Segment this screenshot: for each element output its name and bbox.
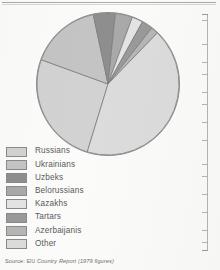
legend-label: Ukrainians — [35, 161, 75, 169]
axis-line — [207, 14, 208, 250]
adjacent-chart-axis — [200, 14, 214, 250]
axis-tick — [202, 194, 208, 195]
page-top-rule-shadow — [2, 4, 216, 5]
axis-tick — [202, 140, 208, 141]
axis-tick — [202, 62, 208, 63]
source-note: (1979 figures) — [78, 258, 114, 264]
source-publisher: EIU — [27, 258, 36, 264]
legend-item: Russians — [6, 145, 136, 158]
legend-swatch — [6, 173, 27, 183]
legend-swatch — [6, 199, 27, 209]
legend-swatch — [6, 186, 27, 196]
legend-item: Kazakhs — [6, 198, 136, 211]
legend-item: Azerbaijanis — [6, 224, 136, 237]
legend-label: Other — [35, 240, 56, 248]
legend-label: Russians — [35, 147, 70, 155]
axis-tick — [202, 44, 208, 45]
legend-swatch — [6, 147, 27, 157]
page-top-rule — [2, 2, 216, 3]
axis-tick — [202, 14, 208, 15]
legend-label: Tartars — [35, 213, 61, 221]
chart-page: RussiansUkrainiansUzbeksBelorussiansKaza… — [0, 0, 220, 270]
legend-label: Kazakhs — [35, 200, 67, 208]
legend-item: Ukrainians — [6, 158, 136, 171]
axis-tick — [202, 20, 208, 21]
chart-legend: RussiansUkrainiansUzbeksBelorussiansKaza… — [6, 145, 136, 251]
legend-swatch — [6, 226, 27, 236]
axis-tick — [202, 242, 208, 243]
axis-tick — [202, 104, 208, 105]
axis-tick — [202, 250, 208, 251]
pie-chart-svg — [32, 8, 184, 160]
axis-tick — [202, 212, 208, 213]
axis-tick — [202, 74, 208, 75]
axis-tick — [202, 230, 208, 231]
legend-item: Uzbeks — [6, 171, 136, 184]
axis-tick — [202, 92, 208, 93]
axis-tick — [202, 176, 208, 177]
pie-slice-group — [37, 13, 179, 155]
legend-swatch — [6, 213, 27, 223]
legend-swatch — [6, 160, 27, 170]
source-publication: Country Report — [37, 258, 76, 264]
legend-item: Tartars — [6, 211, 136, 224]
legend-item: Other — [6, 237, 136, 250]
legend-label: Belorussians — [35, 187, 84, 195]
chart-source: Source: EIU Country Report (1979 figures… — [5, 258, 114, 264]
legend-item: Belorussians — [6, 185, 136, 198]
axis-tick — [202, 164, 208, 165]
pie-chart — [32, 8, 184, 160]
source-label: Source: — [5, 258, 25, 264]
legend-label: Uzbeks — [35, 174, 63, 182]
axis-tick — [202, 122, 208, 123]
legend-label: Azerbaijanis — [35, 227, 81, 235]
legend-swatch — [6, 239, 27, 249]
